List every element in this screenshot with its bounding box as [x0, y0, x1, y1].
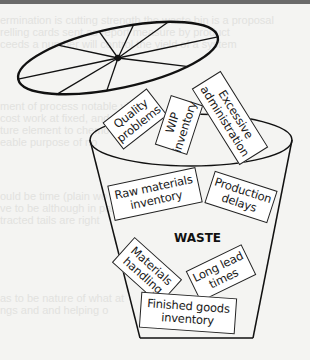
waste-center-label: WASTE [174, 231, 221, 245]
bin-lid-icon [12, 7, 224, 108]
label-finished-goods-inventory: Finished goods inventory [139, 292, 237, 335]
